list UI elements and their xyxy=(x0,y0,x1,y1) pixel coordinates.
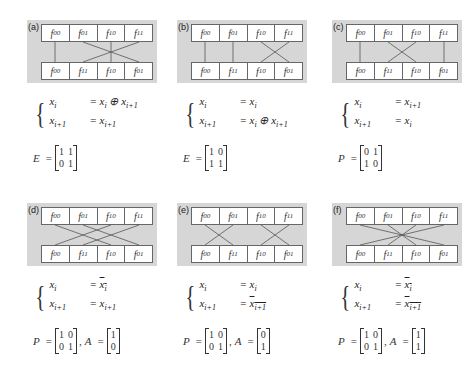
matrix-row: 01 xyxy=(209,341,223,353)
equals-sign: = xyxy=(351,152,357,164)
panel-label: (d) xyxy=(28,205,39,215)
matrix-entry: 0 xyxy=(218,146,223,158)
equals-sign: = xyxy=(402,335,408,347)
bottom-cell: f10 xyxy=(98,63,126,79)
matrix-entry: 0 xyxy=(68,329,73,341)
bottom-cell: f01 xyxy=(275,63,302,79)
brace-icon: { xyxy=(340,281,350,311)
bottom-cell: f11 xyxy=(220,63,248,79)
vector-row: 1 xyxy=(416,341,421,353)
equation-lines: xi= xixi+1= xi+1 xyxy=(199,277,266,315)
bottom-cell: f01 xyxy=(125,63,152,79)
equation-line: xi+1= xi+1 xyxy=(199,296,266,315)
matrix-name: P xyxy=(338,152,345,164)
panel-label: (a) xyxy=(28,22,39,32)
panel-label: (b) xyxy=(178,22,189,32)
bottom-row: f00f11f10f01 xyxy=(191,245,303,263)
top-row: f00f01f10f11 xyxy=(41,24,153,42)
equation-line: xi= xi xyxy=(199,94,287,113)
matrix-row: 11 xyxy=(209,158,223,170)
matrix: 1101 xyxy=(55,145,77,171)
top-cell: f10 xyxy=(248,25,276,41)
panel-a: (a)f00f01f10f11f00f11f10f01{xi= xi ⊕ xi+… xyxy=(0,20,155,180)
matrix-expression: P=0110 xyxy=(338,145,382,171)
top-cell: f00 xyxy=(192,25,220,41)
matrix-entry: 1 xyxy=(373,146,378,158)
vector: 10 xyxy=(107,328,120,354)
top-row: f00f01f10f11 xyxy=(191,207,303,225)
top-row: f00f01f10f11 xyxy=(191,24,303,42)
permutation-diagram: (e)f00f01f10f11f00f11f10f01 xyxy=(177,203,307,266)
equation-lhs: xi+1 xyxy=(354,296,394,315)
top-cell: f01 xyxy=(70,25,98,41)
equation-system: {xi= xixi+1= xi+1 xyxy=(338,277,421,315)
brace-icon: { xyxy=(185,281,195,311)
equation-line: xi+1= xi xyxy=(354,113,421,132)
matrix-entry: 0 xyxy=(218,329,223,341)
bottom-cell: f10 xyxy=(403,246,431,262)
bottom-cell: f11 xyxy=(220,246,248,262)
top-row: f00f01f10f11 xyxy=(346,24,458,42)
panel-label: (c) xyxy=(333,22,344,32)
equation-line: xi+1= xi+1 xyxy=(49,296,116,315)
connection-lines xyxy=(41,225,153,245)
top-cell: f00 xyxy=(42,208,70,224)
equation-system: {xi= xixi+1= xi ⊕ xi+1 xyxy=(183,94,288,132)
vector-row: 0 xyxy=(111,341,116,353)
panel-c: (c)f00f01f10f11f00f11f10f01{xi= xi+1xi+1… xyxy=(305,20,460,180)
top-row: f00f01f10f11 xyxy=(41,207,153,225)
permutation-diagram: (f)f00f01f10f11f00f11f10f01 xyxy=(332,203,462,266)
permutation-diagram: (a)f00f01f10f11f00f11f10f01 xyxy=(27,20,157,83)
matrix-row: 01 xyxy=(364,341,378,353)
panel-b: (b)f00f01f10f11f00f11f10f01{xi= xixi+1= … xyxy=(150,20,305,180)
matrix-entry: 0 xyxy=(209,341,214,353)
matrix-row: 10 xyxy=(209,329,223,341)
equation-line: xi= xi ⊕ xi+1 xyxy=(49,94,137,113)
equation-rhs: = xi xyxy=(394,113,411,132)
equation-lhs: xi+1 xyxy=(49,113,89,132)
matrix-entry: 1 xyxy=(209,158,214,170)
matrix-expression: P=1001,A=10 xyxy=(33,328,120,354)
bottom-row: f00f11f10f01 xyxy=(41,62,153,80)
equation-rhs: = xi+1 xyxy=(89,113,116,132)
bottom-row: f00f11f10f01 xyxy=(41,245,153,263)
permutation-diagram: (c)f00f01f10f11f00f11f10f01 xyxy=(332,20,462,83)
bottom-cell: f00 xyxy=(347,63,375,79)
bottom-cell: f01 xyxy=(275,246,302,262)
matrix-row: 10 xyxy=(364,158,378,170)
matrix: 1001 xyxy=(360,328,382,354)
top-cell: f01 xyxy=(220,208,248,224)
vector-entry: 0 xyxy=(261,329,266,341)
brace-icon: { xyxy=(340,98,350,128)
bottom-row: f00f11f10f01 xyxy=(346,245,458,263)
matrix-entry: 1 xyxy=(373,341,378,353)
matrix-entry: 1 xyxy=(364,329,369,341)
top-cell: f01 xyxy=(70,208,98,224)
top-cell: f11 xyxy=(275,25,302,41)
equals-sign: = xyxy=(196,152,202,164)
permutation-diagram: (d)f00f01f10f11f00f11f10f01 xyxy=(27,203,157,266)
equals-sign: = xyxy=(196,335,202,347)
bottom-cell: f01 xyxy=(430,246,457,262)
panel-d: (d)f00f01f10f11f00f11f10f01{xi= xixi+1= … xyxy=(0,203,155,363)
equation-line: xi+1= xi+1 xyxy=(49,113,137,132)
equation-rhs: = xi+1 xyxy=(394,296,421,315)
matrix-row: 10 xyxy=(209,146,223,158)
panel-e: (e)f00f01f10f11f00f11f10f01{xi= xixi+1= … xyxy=(150,203,305,363)
vector-name: A xyxy=(390,335,397,347)
vector-entry: 1 xyxy=(111,329,116,341)
matrix-entry: 0 xyxy=(59,158,64,170)
comma: , xyxy=(79,335,82,347)
panel-f: (f)f00f01f10f11f00f11f10f01{xi= xixi+1= … xyxy=(305,203,460,363)
matrix-expression: E=1101 xyxy=(33,145,77,171)
bottom-cell: f00 xyxy=(192,246,220,262)
equals-sign: = xyxy=(247,335,253,347)
matrix-expression: E=1011 xyxy=(183,145,227,171)
bottom-cell: f10 xyxy=(403,63,431,79)
vector-entry: 1 xyxy=(416,341,421,353)
equation-rhs: = xi ⊕ xi+1 xyxy=(239,113,287,132)
equation-lhs: xi+1 xyxy=(49,296,89,315)
equation-system: {xi= xixi+1= xi+1 xyxy=(183,277,266,315)
top-cell: f10 xyxy=(248,208,276,224)
vector-name: A xyxy=(85,335,92,347)
